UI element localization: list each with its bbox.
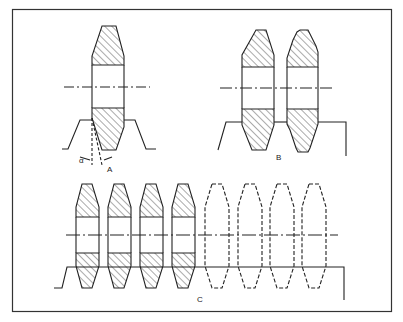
panel-b [218,30,346,156]
gear-c3 [140,184,163,288]
gear-c5-dashed [205,184,229,288]
panel-b-label: B [276,153,281,162]
panel-a-label: A [107,165,113,174]
panel-a [62,26,156,165]
gear-c8-dashed [302,184,326,288]
panel-c-label: C [197,295,203,304]
gear-c6-dashed [238,184,262,288]
panel-c [54,184,344,300]
gear-c1 [76,184,99,288]
figure-frame [13,10,392,312]
diagram-canvas: α A B [0,0,403,322]
gear-c2 [108,184,131,288]
gear-c7-dashed [270,184,294,288]
gear-c4 [172,184,195,288]
angle-alpha-label: α [79,156,84,165]
